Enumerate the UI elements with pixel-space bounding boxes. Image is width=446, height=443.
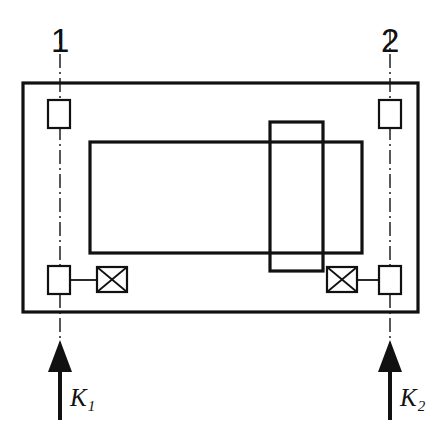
force-label-k2-base: K [400, 384, 417, 411]
arrow-k2 [378, 340, 402, 420]
arrow-k1 [48, 340, 72, 420]
diagram-drawing [0, 0, 446, 443]
force-label-k1: K1 [70, 385, 94, 410]
force-label-k2: K2 [400, 385, 424, 410]
pad-top-right [379, 100, 401, 128]
pad-bottom-right [379, 266, 401, 294]
crossed-box-right [327, 267, 357, 292]
force-label-k1-base: K [70, 384, 87, 411]
station-label-2: 2 [381, 24, 399, 57]
crossed-box-left [97, 267, 127, 292]
station-label-1: 1 [51, 24, 69, 57]
diagram-canvas: 1 2 K1 K2 [0, 0, 446, 443]
pad-top-left [48, 100, 70, 128]
force-label-k2-subscript: 2 [418, 398, 426, 414]
main-body [90, 142, 362, 253]
force-label-k1-subscript: 1 [88, 398, 96, 414]
pad-bottom-left [48, 266, 70, 294]
